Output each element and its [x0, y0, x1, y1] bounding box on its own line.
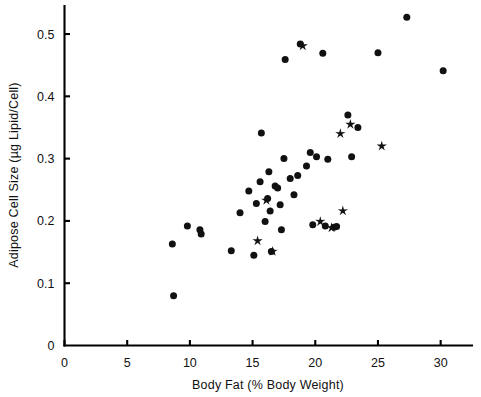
data-point-circle — [374, 49, 381, 56]
data-point-circle — [313, 153, 320, 160]
data-point-circle — [274, 184, 281, 191]
plot-canvas: 051015202530 00.10.20.30.40.5 Body Fat (… — [0, 0, 481, 397]
y-tick-label: 0.5 — [37, 28, 54, 42]
data-point-circle — [278, 226, 285, 233]
y-tick-label: 0.4 — [37, 90, 54, 104]
data-point-circle — [322, 222, 329, 229]
data-point-circle — [348, 153, 355, 160]
data-point-circle — [245, 188, 252, 195]
data-point-circle — [184, 222, 191, 229]
data-point-circle — [307, 149, 314, 156]
data-point-star — [335, 128, 345, 138]
data-point-circle — [303, 163, 310, 170]
data-point-circle — [319, 50, 326, 57]
data-point-circle — [262, 218, 269, 225]
x-tick-label: 30 — [434, 356, 448, 370]
x-tick-labels: 051015202530 — [61, 356, 448, 370]
data-point-star — [345, 119, 355, 129]
scatter-plot-figure: 051015202530 00.10.20.30.40.5 Body Fat (… — [0, 0, 481, 397]
data-point-circle — [344, 112, 351, 119]
data-point-circle — [253, 200, 260, 207]
data-point-star — [252, 235, 262, 245]
data-point-circle — [258, 130, 265, 137]
data-point-circle — [169, 240, 176, 247]
data-point-circle — [282, 56, 289, 63]
y-axis-title: Adipose Cell Size (µg Lipid/Cell) — [7, 82, 21, 267]
data-point-circle — [287, 175, 294, 182]
data-point-circle — [250, 252, 257, 259]
x-tick-label: 15 — [246, 356, 260, 370]
y-tick-label: 0.1 — [37, 277, 54, 291]
data-point-circle — [324, 156, 331, 163]
y-tick-labels: 00.10.20.30.40.5 — [37, 28, 54, 353]
data-point-circle — [170, 292, 177, 299]
y-tick-label: 0.3 — [37, 152, 54, 166]
data-points — [169, 14, 447, 299]
data-point-circle — [354, 124, 361, 131]
x-tick-label: 20 — [308, 356, 322, 370]
data-point-circle — [198, 230, 205, 237]
x-axis-title: Body Fat (% Body Weight) — [192, 378, 344, 392]
data-point-circle — [280, 155, 287, 162]
data-point-circle — [277, 201, 284, 208]
data-point-circle — [228, 247, 235, 254]
y-tick-label: 0 — [48, 339, 55, 353]
data-point-circle — [403, 14, 410, 21]
data-point-circle — [290, 191, 297, 198]
data-point-circle — [267, 207, 274, 214]
data-point-circle — [440, 67, 447, 74]
data-point-circle — [265, 168, 272, 175]
y-tick-label: 0.2 — [37, 214, 54, 228]
data-point-star — [377, 141, 387, 151]
tick-marks — [65, 34, 441, 345]
axes — [65, 6, 473, 346]
data-point-circle — [237, 209, 244, 216]
x-tick-label: 25 — [371, 356, 385, 370]
data-point-circle — [257, 178, 264, 185]
x-tick-label: 0 — [61, 356, 68, 370]
x-tick-label: 10 — [183, 356, 197, 370]
data-point-star — [338, 206, 348, 216]
x-tick-label: 5 — [124, 356, 131, 370]
data-point-circle — [309, 221, 316, 228]
data-point-circle — [294, 172, 301, 179]
